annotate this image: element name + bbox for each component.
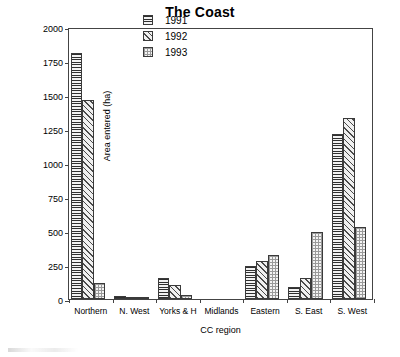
bar-s-east-1992 [300, 278, 312, 299]
x-axis-tick-label: Midlands [204, 306, 238, 316]
bar-eastern-1991 [245, 266, 257, 299]
legend-item-1992: 1992 [143, 28, 187, 44]
bar-eastern-1993 [268, 255, 280, 299]
x-axis-tick-mark [243, 299, 244, 303]
bar-s-west-1992 [343, 118, 355, 299]
y-axis-tick-label: 750 [29, 194, 63, 204]
bar-northern-1993 [94, 283, 106, 299]
x-axis-tick-label: Yorks & H [159, 306, 196, 316]
bar-s-east-1993 [311, 232, 323, 299]
scan-artifact [8, 348, 78, 352]
y-axis-tick-label: 250 [29, 262, 63, 272]
bar-s-west-1991 [332, 134, 344, 299]
bar-chart: The Coast Area entered (ha) CC region 02… [0, 0, 400, 357]
plot-area: Area entered (ha) CC region 025050075010… [68, 28, 373, 300]
bar-n-west-1992 [126, 297, 138, 299]
chart-legend: 199119921993 [143, 12, 187, 60]
y-axis-tick-label: 500 [29, 228, 63, 238]
x-axis-tick-label: Northern [74, 306, 107, 316]
y-axis-tick-label: 1500 [29, 92, 63, 102]
legend-swatch-icon [143, 15, 153, 25]
bar-yorks-h-1993 [181, 295, 193, 299]
legend-label: 1991 [165, 15, 187, 26]
legend-item-1993: 1993 [143, 44, 187, 60]
y-axis-tick-mark [65, 267, 69, 268]
x-axis-tick-label: S. East [295, 306, 322, 316]
y-axis-tick-mark [65, 165, 69, 166]
y-axis-tick-label: 1750 [29, 58, 63, 68]
legend-item-1991: 1991 [143, 12, 187, 28]
y-axis-tick-label: 0 [29, 296, 63, 306]
x-axis-tick-mark [374, 299, 375, 303]
bar-yorks-h-1992 [169, 285, 181, 299]
x-axis-tick-label: N. West [119, 306, 149, 316]
x-axis-tick-mark [69, 299, 70, 303]
y-axis-tick-label: 1250 [29, 126, 63, 136]
bar-yorks-h-1991 [158, 278, 170, 299]
x-axis-tick-mark [200, 299, 201, 303]
x-axis-tick-label: Eastern [250, 306, 279, 316]
legend-label: 1993 [165, 47, 187, 58]
y-axis-tick-mark [65, 63, 69, 64]
bar-northern-1992 [82, 100, 94, 299]
bar-eastern-1992 [256, 261, 268, 299]
bar-s-east-1991 [288, 287, 300, 299]
bar-n-west-1993 [137, 297, 149, 299]
bar-northern-1991 [71, 53, 83, 299]
x-axis-tick-mark [330, 299, 331, 303]
y-axis-label: Area entered (ha) [102, 36, 112, 216]
y-axis-tick-mark [65, 29, 69, 30]
y-axis-tick-mark [65, 97, 69, 98]
y-axis-tick-mark [65, 233, 69, 234]
legend-label: 1992 [165, 31, 187, 42]
chart-title: The Coast [0, 4, 400, 20]
x-axis-tick-label: S. West [337, 306, 367, 316]
y-axis-tick-mark [65, 199, 69, 200]
y-axis-tick-label: 1000 [29, 160, 63, 170]
x-axis-tick-mark [287, 299, 288, 303]
x-axis-tick-mark [113, 299, 114, 303]
legend-swatch-icon [143, 47, 153, 57]
y-axis-tick-label: 2000 [29, 24, 63, 34]
legend-swatch-icon [143, 31, 153, 41]
x-axis-tick-mark [156, 299, 157, 303]
bar-s-west-1993 [355, 227, 367, 299]
x-axis-label: CC region [69, 325, 372, 335]
y-axis-tick-mark [65, 131, 69, 132]
bar-n-west-1991 [114, 296, 126, 299]
